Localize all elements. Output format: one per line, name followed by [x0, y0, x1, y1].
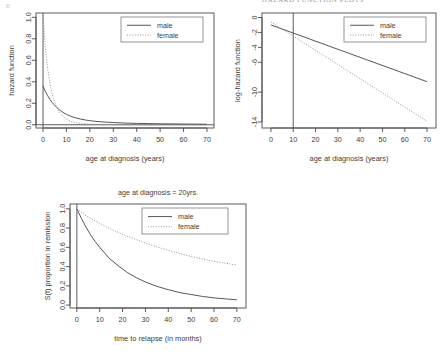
x-axis-label: age at diagnosis (years) [310, 154, 389, 163]
y-tick-label: -2 [250, 29, 259, 35]
x-tick-label: 40 [164, 315, 172, 324]
panel-log-hazard-function: 0102030405060700-2-4-6-10-14age at diagn… [222, 4, 444, 174]
plot-title: age at diagnosis = 20yrs. [118, 188, 198, 197]
y-tick-label: 1.0 [58, 204, 67, 214]
panel-survival-function: age at diagnosis = 20yrs.010203040506070… [34, 180, 256, 358]
x-axis-label: age at diagnosis (years) [86, 154, 165, 163]
x-axis-label: time to relapse (in months) [114, 334, 202, 343]
y-tick-label: -4 [250, 44, 259, 50]
y-tick-label: 0.6 [58, 242, 67, 252]
y-tick-label: -14 [250, 117, 259, 127]
x-tick-label: 20 [119, 315, 127, 324]
x-tick-label: 30 [109, 135, 117, 144]
y-tick-label: 1.0 [24, 12, 33, 22]
hazard-function-plot: 0102030405060700.00.20.40.60.81.0age at … [0, 4, 222, 174]
x-tick-label: 0 [41, 135, 45, 144]
y-tick-label: 0 [250, 15, 259, 19]
x-tick-label: 10 [96, 315, 104, 324]
y-tick-label: 0.8 [24, 34, 33, 44]
x-tick-label: 60 [210, 315, 218, 324]
x-tick-label: 70 [203, 135, 211, 144]
x-tick-label: 30 [141, 315, 149, 324]
legend: malefemale [142, 208, 228, 234]
y-axis-label: log-hazard function [233, 39, 242, 102]
x-tick-label: 40 [356, 135, 364, 144]
plot-region-log-hazard-function: 0102030405060700-2-4-6-10-14age at diagn… [233, 13, 436, 163]
y-tick-label: 0.0 [58, 300, 67, 310]
x-tick-label: 40 [133, 135, 141, 144]
y-tick-label: -10 [250, 87, 259, 97]
x-tick-label: 30 [334, 135, 342, 144]
x-tick-label: 0 [75, 315, 79, 324]
y-tick-label: 0.4 [58, 262, 67, 272]
x-tick-label: 50 [378, 135, 386, 144]
x-tick-label: 10 [62, 135, 70, 144]
legend-label-female: female [157, 31, 179, 40]
y-tick-label: 0.8 [58, 223, 67, 233]
legend-label-female: female [178, 222, 200, 231]
y-axis-label: S(t) proportion in remission [43, 212, 52, 301]
x-tick-label: 0 [269, 135, 273, 144]
y-tick-label: 0.2 [58, 281, 67, 291]
y-tick-label: 0.6 [24, 55, 33, 65]
y-tick-label: 0.4 [24, 77, 33, 87]
y-tick-label: 0.2 [24, 98, 33, 108]
x-tick-label: 70 [233, 315, 241, 324]
x-tick-label: 60 [401, 135, 409, 144]
figure-page: e HAZARD FUNCTION PLOTS 0102030405060700… [0, 0, 444, 358]
y-axis-label: hazard function [7, 45, 16, 96]
panel-hazard-function: 0102030405060700.00.20.40.60.81.0age at … [0, 4, 222, 174]
log-hazard-function-plot: 0102030405060700-2-4-6-10-14age at diagn… [222, 4, 444, 174]
y-tick-label: 0.0 [24, 120, 33, 130]
legend-label-male: male [157, 21, 173, 30]
x-tick-label: 10 [289, 135, 297, 144]
plot-region-survival-function: age at diagnosis = 20yrs.010203040506070… [43, 188, 246, 343]
x-tick-label: 50 [187, 315, 195, 324]
legend-label-female: female [380, 31, 402, 40]
x-tick-label: 60 [180, 135, 188, 144]
x-tick-label: 50 [156, 135, 164, 144]
legend-label-male: male [178, 212, 194, 221]
x-tick-label: 70 [423, 135, 431, 144]
legend: malefemale [344, 17, 426, 42]
x-tick-label: 20 [86, 135, 94, 144]
series-line-male [43, 86, 207, 124]
legend-label-male: male [380, 21, 396, 30]
survival-function-plot: age at diagnosis = 20yrs.010203040506070… [34, 180, 256, 358]
plot-region-hazard-function: 0102030405060700.00.20.40.60.81.0age at … [7, 12, 214, 163]
x-tick-label: 20 [312, 135, 320, 144]
legend: malefemale [121, 17, 203, 42]
cut-off-page-header: HAZARD FUNCTION PLOTS [262, 0, 444, 3]
y-tick-label: -6 [250, 59, 259, 65]
